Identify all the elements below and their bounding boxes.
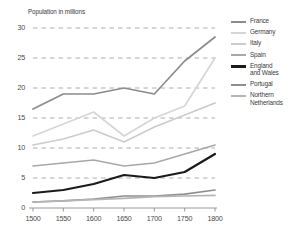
legend-swatch-icon xyxy=(231,84,246,86)
y-tick-label: 25 xyxy=(3,53,25,62)
legend-swatch-icon xyxy=(231,21,246,23)
x-tick-label: 1600 xyxy=(80,214,108,223)
legend-swatch-icon xyxy=(231,43,246,45)
y-tick-label: 5 xyxy=(3,173,25,182)
series-line xyxy=(33,154,215,193)
x-tick-label: 1550 xyxy=(49,214,77,223)
x-tick-label: 1750 xyxy=(171,214,199,223)
legend-item-label: Northern Netherlands xyxy=(250,91,283,105)
legend-item[interactable]: England and Wales xyxy=(231,62,291,76)
legend-swatch-icon xyxy=(231,32,246,34)
y-tick-label: 15 xyxy=(3,113,25,122)
y-tick-label: 30 xyxy=(3,23,25,32)
series-line xyxy=(33,58,215,136)
series-line xyxy=(33,103,215,145)
x-tick-label: 1500 xyxy=(19,214,47,223)
x-tick-label: 1650 xyxy=(110,214,138,223)
legend-item-label: Italy xyxy=(250,39,261,46)
legend-item[interactable]: Spain xyxy=(231,51,291,58)
legend-item-label: Portugal xyxy=(250,80,273,87)
legend-item-label: Spain xyxy=(250,51,266,58)
legend-item-label: England and Wales xyxy=(250,62,279,76)
legend-item[interactable]: Italy xyxy=(231,39,291,46)
legend-swatch-icon xyxy=(231,54,246,56)
legend-item[interactable]: Northern Netherlands xyxy=(231,91,291,105)
y-tick-label: 20 xyxy=(3,83,25,92)
x-tick-label: 1800 xyxy=(201,214,229,223)
x-tick-label: 1700 xyxy=(140,214,168,223)
legend-swatch-icon xyxy=(231,95,246,97)
legend-item-label: Germany xyxy=(250,28,275,35)
y-tick-label: 10 xyxy=(3,143,25,152)
population-line-chart: Population in millions 051015202530 1500… xyxy=(0,0,291,240)
legend-item-label: France xyxy=(250,17,269,24)
legend-item[interactable]: Germany xyxy=(231,28,291,35)
chart-legend: FranceGermanyItalySpainEngland and Wales… xyxy=(231,17,291,110)
legend-item[interactable]: France xyxy=(231,17,291,24)
legend-swatch-icon xyxy=(231,65,246,68)
y-tick-label: 0 xyxy=(3,203,25,212)
legend-item[interactable]: Portugal xyxy=(231,80,291,87)
series-line xyxy=(33,37,215,109)
